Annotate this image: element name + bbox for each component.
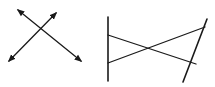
transversal-lower-to-upper [108, 27, 205, 63]
figure-transversals [108, 17, 207, 82]
line-ascending-arrows [9, 13, 56, 61]
slanted-line [183, 19, 207, 82]
figure-intersecting-lines [9, 10, 81, 61]
line-descending-arrows [18, 10, 81, 61]
transversal-upper-to-lower [108, 35, 196, 64]
diagram-canvas [0, 0, 215, 87]
